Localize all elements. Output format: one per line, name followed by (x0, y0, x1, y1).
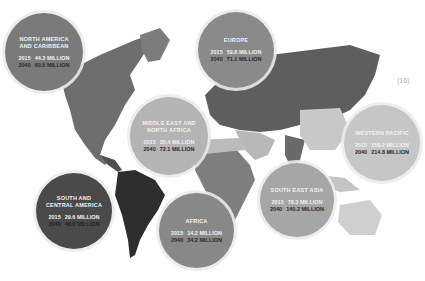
region-bubble-south-east-asia: SOUTH EAST ASIA 201578.3 MILLION 2040140… (260, 163, 334, 237)
value-2040: 204048.8 MILLION (48, 221, 99, 228)
australia-landmass (338, 200, 382, 235)
greenland (140, 28, 170, 62)
value-2015: 201559.8 MILLION (210, 49, 261, 56)
region-bubble-western-pacific: WESTERN PACIFIC 2015153.2 MILLION 204021… (344, 105, 420, 181)
region-name: NORTH AMERICA AND CARIBBEAN (13, 36, 75, 50)
region-name: SOUTH EAST ASIA (271, 187, 324, 194)
value-2015: 2015153.2 MILLION (355, 142, 409, 149)
south-america-landmass (115, 170, 165, 258)
east-asia-landmass (300, 108, 350, 150)
value-2015: 201578.3 MILLION (271, 199, 322, 206)
region-bubble-south-central-america: SOUTH AND CENTRAL AMERICA 201529.6 MILLI… (36, 173, 112, 249)
value-2015: 201544.3 MILLION (18, 55, 69, 62)
region-name: WESTERN PACIFIC (355, 130, 409, 137)
region-bubble-mena: MIDDLE EAST AND NORTH AFRICA 201535.4 MI… (130, 97, 208, 175)
region-name: SOUTH AND CENTRAL AMERICA (44, 195, 104, 209)
value-2040: 2040140.2 MILLION (270, 206, 324, 213)
value-2015: 201535.4 MILLION (143, 139, 194, 146)
value-2040: 204060.5 MILLION (18, 62, 69, 69)
value-2040: 2040214.8 MILLION (355, 149, 409, 156)
value-2040: 204072.1 MILLION (143, 146, 194, 153)
region-name: AFRICA (186, 218, 208, 225)
value-2040: 204034.2 MILLION (171, 237, 222, 244)
region-name: EUROPE (224, 37, 248, 44)
region-bubble-africa: AFRICA 201514.2 MILLION 204034.2 MILLION (159, 193, 234, 268)
region-bubble-europe: EUROPE 201559.8 MILLION 204071.1 MILLION (198, 12, 274, 88)
region-name: MIDDLE EAST AND NORTH AFRICA (138, 120, 200, 134)
world-diabetes-map: NORTH AMERICA AND CARIBBEAN 201544.3 MIL… (0, 0, 425, 281)
value-2040: 204071.1 MILLION (210, 56, 261, 63)
reference-label: (16) (397, 77, 409, 84)
value-2015: 201529.6 MILLION (48, 214, 99, 221)
value-2015: 201514.2 MILLION (171, 230, 222, 237)
region-bubble-north-america: NORTH AMERICA AND CARIBBEAN 201544.3 MIL… (5, 13, 83, 91)
